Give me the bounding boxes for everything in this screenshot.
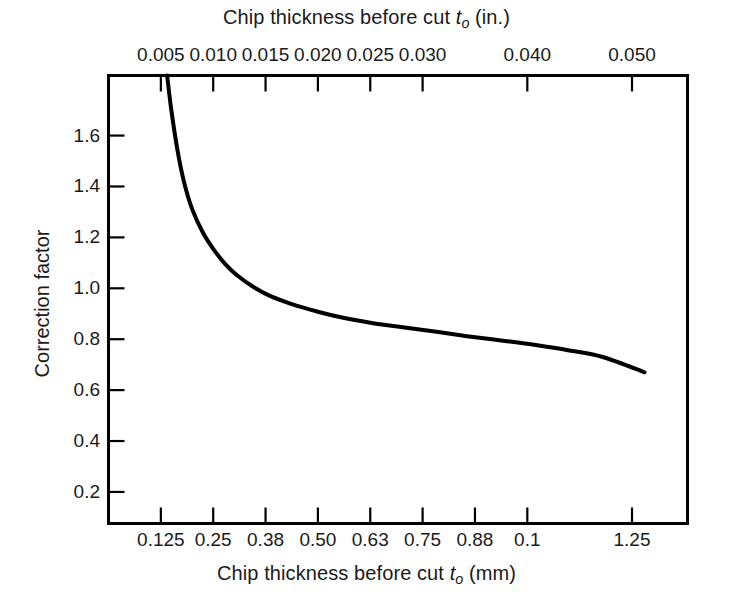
plot-area xyxy=(0,0,733,601)
top-axis-ticks xyxy=(161,76,632,92)
plot-frame xyxy=(109,76,688,524)
correction-factor-curve xyxy=(167,76,644,373)
bottom-axis-ticks xyxy=(161,508,632,524)
chart-figure: Chip thickness before cut to (in.) 0.005… xyxy=(0,0,733,601)
y-axis-ticks xyxy=(109,136,125,492)
